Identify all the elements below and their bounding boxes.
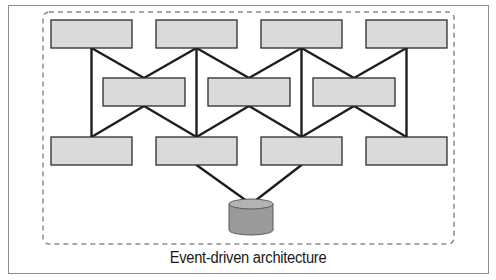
edge-top-3-mid-3 — [302, 48, 355, 78]
edge-top-2-mid-1 — [144, 48, 197, 78]
edge-bot-3-event-store — [251, 165, 302, 204]
edge-bot-2-event-store — [197, 165, 252, 204]
service-box-bot-1 — [51, 137, 132, 165]
service-box-mid-3 — [313, 78, 395, 106]
edge-mid-3-bot-3 — [302, 106, 355, 137]
edge-mid-1-bot-1 — [92, 106, 145, 137]
service-box-bot-2 — [156, 137, 237, 165]
service-box-top-1 — [51, 20, 132, 48]
database-top — [229, 199, 273, 209]
database-icon — [229, 199, 273, 235]
service-box-top-4 — [366, 20, 447, 48]
service-box-bot-3 — [261, 137, 342, 165]
event-driven-diagram — [0, 0, 496, 280]
edge-top-3-mid-2 — [249, 48, 302, 78]
service-box-mid-2 — [208, 78, 290, 106]
connections — [92, 48, 407, 204]
diagram-caption: Event-driven architecture — [20, 249, 476, 267]
service-box-top-2 — [156, 20, 237, 48]
edge-top-4-mid-3 — [354, 48, 407, 78]
edge-mid-2-bot-3 — [249, 106, 302, 137]
service-box-bot-4 — [366, 137, 447, 165]
nodes — [51, 20, 447, 165]
service-box-top-3 — [261, 20, 342, 48]
service-box-mid-1 — [103, 78, 185, 106]
edge-top-1-mid-1 — [92, 48, 145, 78]
edge-top-2-mid-2 — [197, 48, 250, 78]
edge-mid-3-bot-4 — [354, 106, 407, 137]
edge-mid-2-bot-2 — [197, 106, 250, 137]
edge-mid-1-bot-2 — [144, 106, 197, 137]
